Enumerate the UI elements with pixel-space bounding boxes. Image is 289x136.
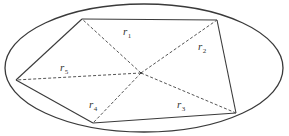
label-r5: r5 [60,61,69,76]
pentagon-edge-ED [93,113,236,123]
radius-to-A [82,19,141,73]
pentagon-edge-BE [217,20,236,113]
ellipse [5,4,283,132]
pentagon-edge-AB [82,19,217,20]
radius-to-E [141,73,236,113]
radius-to-C [16,73,141,80]
label-r4: r4 [89,98,98,113]
label-r2: r2 [198,40,207,55]
label-r3: r3 [177,98,186,113]
ellipse-pentagon-diagram: r1r2r3r4r5 [0,0,289,136]
pentagon-edge-CA [16,19,82,80]
radius-labels: r1r2r3r4r5 [60,25,207,113]
radius-to-D [93,73,141,123]
label-r1: r1 [123,25,132,40]
center-point [140,72,142,74]
